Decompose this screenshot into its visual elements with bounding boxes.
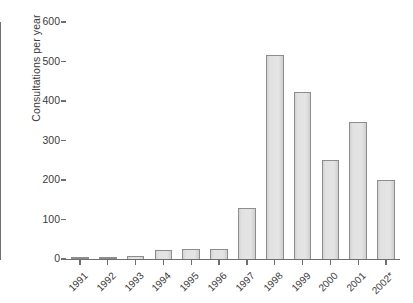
y-axis-tick-label: 0 [20, 252, 60, 264]
y-axis-line [0, 22, 1, 260]
y-axis-tick-label: 100 [20, 213, 60, 225]
x-axis-tick [330, 260, 331, 265]
y-axis-tick-label: 500 [20, 55, 60, 67]
x-axis-tick [191, 260, 192, 265]
bar-1998 [266, 55, 284, 259]
y-axis-tick-label: 300 [20, 134, 60, 146]
y-axis-tick [61, 21, 66, 22]
bar-1996 [210, 249, 228, 259]
x-axis-tick [274, 260, 275, 265]
bar-1994 [155, 250, 173, 259]
y-axis-tick [61, 100, 66, 101]
y-axis-tick [61, 258, 66, 259]
bar-1993 [127, 256, 145, 259]
y-axis-tick [61, 219, 66, 220]
y-axis-tick [61, 179, 66, 180]
x-axis-tick [358, 260, 359, 265]
bar-2000 [322, 160, 340, 259]
y-axis-tick-label: 400 [20, 94, 60, 106]
bar-1995 [182, 249, 200, 259]
x-axis-tick [246, 260, 247, 265]
y-axis-tick-label: 200 [20, 173, 60, 185]
x-axis-tick [107, 260, 108, 265]
bar-1991 [71, 257, 89, 259]
x-axis-tick [385, 260, 386, 265]
bar-1997 [238, 208, 256, 259]
x-axis-tick [218, 260, 219, 265]
y-axis-tick-label: 600 [20, 15, 60, 27]
y-axis-tick [61, 140, 66, 141]
bar-2002 [377, 180, 395, 259]
x-axis-tick [163, 260, 164, 265]
bar-2001 [349, 122, 367, 259]
x-axis-tick [135, 260, 136, 265]
bar-chart-figure: Consultations per year 01002003004005006… [0, 0, 413, 303]
x-axis-tick [79, 260, 80, 265]
y-axis-tick [61, 61, 66, 62]
x-axis-line [66, 259, 400, 260]
bar-1992 [99, 257, 117, 259]
x-axis-tick [302, 260, 303, 265]
bar-1999 [294, 92, 312, 259]
